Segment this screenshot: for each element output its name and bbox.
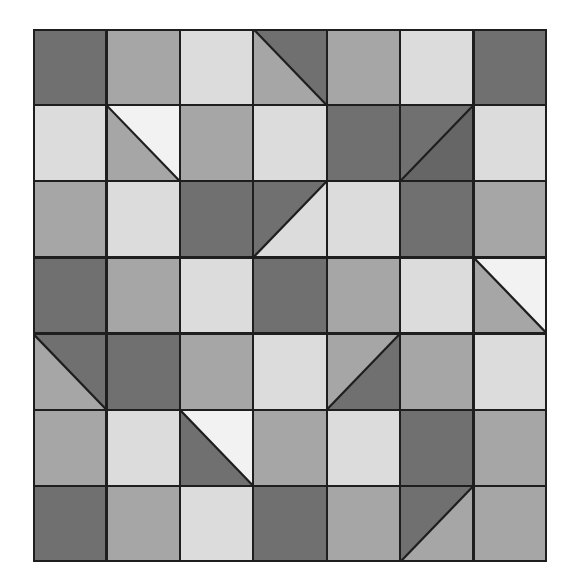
tile-solid — [474, 334, 547, 410]
tile-solid — [327, 29, 400, 105]
tile-grid-svg — [33, 29, 547, 562]
tile-solid — [400, 181, 473, 257]
tile-solid — [253, 334, 326, 410]
tile-solid — [33, 105, 106, 181]
tile-grid — [33, 29, 547, 562]
tile-solid — [180, 486, 253, 562]
tile-solid — [180, 29, 253, 105]
tile-solid — [180, 257, 253, 333]
tile-solid — [33, 29, 106, 105]
tile-solid — [180, 334, 253, 410]
tile-solid — [106, 334, 179, 410]
tile-solid — [106, 257, 179, 333]
tile-solid — [106, 486, 179, 562]
tile-solid — [253, 486, 326, 562]
tile-solid — [474, 181, 547, 257]
tile-solid — [474, 486, 547, 562]
tile-solid — [106, 29, 179, 105]
tile-solid — [33, 410, 106, 486]
tile-solid — [474, 105, 547, 181]
tile-solid — [180, 181, 253, 257]
tile-solid — [253, 105, 326, 181]
tile-solid — [253, 410, 326, 486]
tile-solid — [327, 105, 400, 181]
tile-solid — [106, 410, 179, 486]
tile-solid — [400, 29, 473, 105]
tile-solid — [327, 181, 400, 257]
tile-solid — [474, 29, 547, 105]
tile-solid — [33, 257, 106, 333]
tile-solid — [327, 486, 400, 562]
tile-solid — [400, 257, 473, 333]
tile-solid — [180, 105, 253, 181]
figure-canvas — [0, 0, 576, 586]
tile-solid — [474, 410, 547, 486]
tile-solid — [400, 334, 473, 410]
tile-solid — [327, 410, 400, 486]
tile-solid — [33, 181, 106, 257]
tile-solid — [106, 181, 179, 257]
tile-solid — [400, 410, 473, 486]
tile-solid — [33, 486, 106, 562]
tile-solid — [253, 257, 326, 333]
tile-solid — [327, 257, 400, 333]
